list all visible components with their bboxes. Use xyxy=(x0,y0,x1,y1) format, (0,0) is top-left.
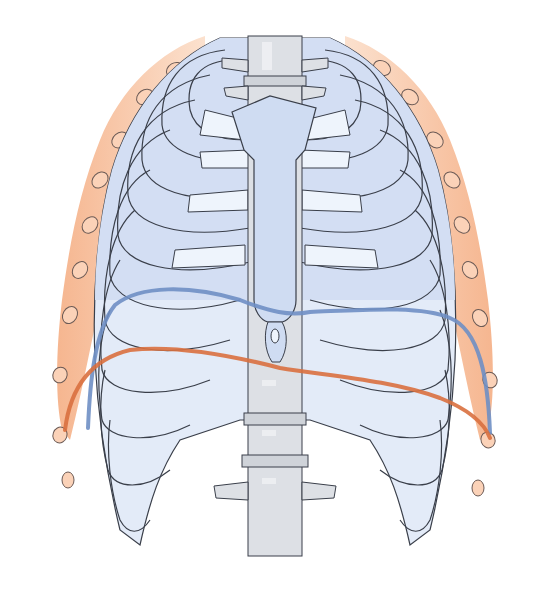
thoracic-cage-illustration xyxy=(0,0,549,597)
